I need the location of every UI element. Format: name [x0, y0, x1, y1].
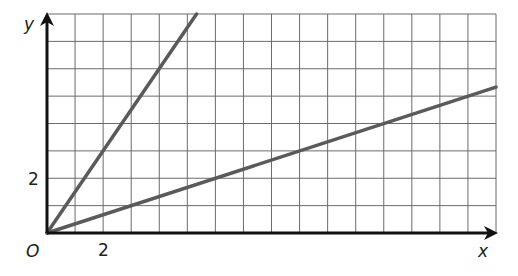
y-tick-label: 2: [28, 169, 39, 189]
origin-label: O: [26, 241, 39, 261]
y-axis-label: y: [23, 14, 35, 34]
x-axis-label: x: [477, 241, 489, 261]
line-chart: y x O 2 2: [0, 0, 518, 276]
grid: [47, 14, 496, 233]
x-tick-label: 2: [98, 240, 109, 260]
